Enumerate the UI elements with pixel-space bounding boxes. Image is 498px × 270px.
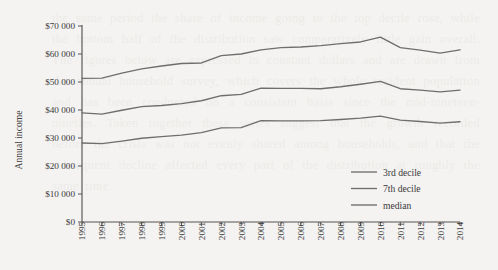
y-axis: $0$10 000$20 000$30 000$40 000$50 000$60… (45, 21, 82, 227)
x-tick-label: 2009 (356, 221, 366, 240)
series-lines (82, 37, 460, 143)
series-line-7th-decile (82, 37, 460, 78)
x-tick-label: 2014 (455, 221, 465, 240)
y-tick-label: $40 000 (45, 105, 75, 115)
y-tick-label: $50 000 (45, 77, 75, 87)
x-tick-label: 2006 (296, 221, 306, 240)
x-tick-label: 2011 (396, 222, 406, 240)
x-axis: 1995199619971998199920002001200220032004… (77, 221, 465, 240)
series-line-3rd-decile (82, 116, 460, 143)
x-tick-label: 1996 (97, 221, 107, 240)
y-tick-label: $30 000 (45, 133, 75, 143)
chart-legend: 3rd decile7th decilemedian (351, 167, 421, 211)
x-tick-label: 1999 (157, 221, 167, 240)
legend-label-3rd-decile: 3rd decile (383, 167, 421, 178)
y-tick-label: $20 000 (45, 161, 75, 171)
x-tick-label: 2007 (316, 221, 326, 240)
x-tick-label: 2004 (256, 221, 266, 240)
x-tick-label: 2003 (237, 221, 247, 240)
y-axis-title: Annual income (13, 111, 24, 170)
figure-page: the same period the share of income goin… (0, 0, 498, 270)
y-tick-label: $60 000 (45, 49, 75, 59)
x-tick-label: 2000 (177, 221, 187, 240)
series-line-median (82, 81, 460, 114)
x-tick-label: 2013 (436, 221, 446, 240)
y-tick-label: $0 (66, 217, 76, 227)
legend-label-median: median (383, 200, 411, 211)
x-tick-label: 1997 (117, 221, 127, 240)
x-tick-label: 2001 (197, 221, 207, 240)
x-tick-label: 1998 (137, 221, 147, 240)
x-tick-label: 2005 (276, 221, 286, 240)
y-tick-label: $10 000 (45, 189, 75, 199)
x-tick-label: 2002 (217, 221, 227, 240)
line-chart: $0$10 000$20 000$30 000$40 000$50 000$60… (0, 0, 498, 270)
x-tick-label: 2010 (376, 221, 386, 240)
chart-plot-area: $0$10 000$20 000$30 000$40 000$50 000$60… (0, 0, 498, 270)
y-tick-label: $70 000 (45, 21, 75, 31)
legend-label-7th-decile: 7th decile (383, 183, 421, 194)
x-tick-label: 2008 (336, 221, 346, 240)
x-tick-label: 2012 (416, 221, 426, 240)
x-tick-label: 1995 (77, 221, 87, 240)
